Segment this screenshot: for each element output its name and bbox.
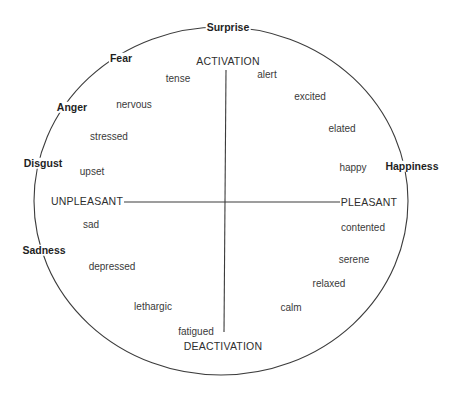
emotion-serene: serene [339,255,370,265]
emotion-tense: tense [166,74,190,84]
emotion-excited: excited [294,92,326,102]
emotion-happy: happy [339,163,366,173]
emotion-fatigued: fatigued [178,327,214,337]
axis-label-activation: ACTIVATION [196,56,259,67]
emotion-alert: alert [257,70,276,80]
emotion-calm: calm [280,303,301,313]
emotion-stressed: stressed [90,132,128,142]
category-happiness: Happiness [384,161,439,172]
axis-label-pleasant: PLEASANT [341,197,397,208]
emotion-upset: upset [80,167,104,177]
axis-label-unpleasant: UNPLEASANT [51,196,123,207]
emotion-lethargic: lethargic [134,302,172,312]
emotion-depressed: depressed [89,262,136,272]
category-disgust: Disgust [23,158,64,169]
category-surprise: Surprise [206,22,251,33]
emotion-contented: contented [341,223,385,233]
circumplex-diagram: Surprise Fear Anger Disgust Sadness Happ… [0,0,457,394]
category-fear: Fear [109,53,133,64]
emotion-sad: sad [83,220,99,230]
axis-label-deactivation: DEACTIVATION [184,341,262,352]
activation-axis [224,70,226,332]
category-anger: Anger [56,102,88,113]
emotion-nervous: nervous [116,100,152,110]
emotion-elated: elated [328,124,355,134]
emotion-relaxed: relaxed [313,279,346,289]
category-sadness: Sadness [21,245,66,256]
